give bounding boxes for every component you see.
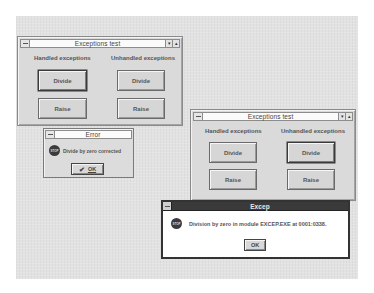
handled-raise-button[interactable]: Raise (38, 98, 87, 119)
ok-label: OK (251, 242, 259, 248)
handled-exceptions-label: Handled exceptions (205, 128, 262, 134)
window-title: Exceptions test (30, 39, 165, 48)
unhandled-raise-button[interactable]: Raise (287, 169, 335, 190)
handled-exceptions-label: Handled exceptions (34, 55, 91, 61)
error-title-bar[interactable]: Error (45, 130, 132, 139)
ok-label: OK (88, 166, 96, 172)
excep-message: Division by zero in module EXCEP.EXE at … (189, 221, 326, 227)
handled-raise-button[interactable]: Raise (209, 169, 257, 190)
unhandled-exceptions-label: Unhandled exceptions (281, 128, 345, 134)
exceptions-test-window-1: Exceptions test ▾ ▴ Handled exceptions U… (17, 36, 183, 126)
system-menu-icon[interactable] (163, 202, 172, 210)
minimize-icon[interactable]: ▾ (165, 40, 172, 47)
title-bar[interactable]: Exceptions test ▾ ▴ (193, 112, 353, 121)
unhandled-raise-button[interactable]: Raise (117, 98, 165, 119)
system-menu-icon[interactable] (46, 131, 55, 138)
window-title: Exceptions test (203, 112, 338, 121)
error-message: Divide by zero corrected (63, 148, 121, 154)
title-bar[interactable]: Exceptions test ▾ ▴ (20, 39, 180, 48)
maximize-icon[interactable]: ▴ (345, 113, 352, 120)
check-icon: ✔ (79, 166, 85, 173)
handled-divide-button[interactable]: Divide (38, 70, 87, 91)
excep-title-bar[interactable]: Excep (163, 202, 348, 211)
system-menu-icon[interactable] (21, 40, 30, 47)
excep-dialog: Excep STOP Division by zero in module EX… (161, 200, 350, 259)
exceptions-test-window-2: Exceptions test ▾ ▴ Handled exceptions U… (190, 109, 356, 201)
maximize-icon[interactable]: ▴ (172, 40, 179, 47)
unhandled-divide-button[interactable]: Divide (117, 70, 165, 91)
error-title: Error (55, 130, 131, 139)
ok-button[interactable]: ✔ OK (71, 163, 104, 175)
stop-icon: STOP (49, 145, 60, 156)
unhandled-exceptions-label: Unhandled exceptions (111, 55, 175, 61)
excep-title: Excep (172, 202, 348, 211)
unhandled-divide-button[interactable]: Divide (287, 142, 335, 163)
handled-divide-button[interactable]: Divide (209, 142, 257, 163)
stop-icon: STOP (171, 218, 182, 229)
error-dialog: Error STOP Divide by zero corrected ✔ OK (43, 128, 134, 178)
minimize-icon[interactable]: ▾ (338, 113, 345, 120)
system-menu-icon[interactable] (194, 113, 203, 120)
ok-button[interactable]: OK (244, 239, 266, 251)
